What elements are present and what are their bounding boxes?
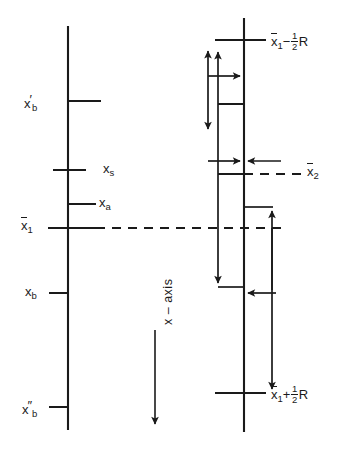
label-x1-bar-text: x1 [21,218,33,233]
label-xa-text: xa [99,195,111,210]
axis-title: x – axis [161,279,175,325]
label-x1-minus-half-r: x1−12R [271,31,308,51]
label-x2-bar-text: x2 [307,164,319,179]
label-x1-minus-half-r-text: x1−12R [271,34,308,49]
label-xb-double-prime-text: x″b [22,402,37,417]
label-xa: xa [99,196,111,212]
label-x2-bar: x2 [307,165,319,181]
figure-canvas: x′b xs xa x1 xb x″b x1−12R x2 x1+12R x –… [0,0,357,451]
label-xb-prime-text: x′b [24,96,37,111]
label-xb: xb [25,285,37,301]
label-xb-text: xb [25,284,37,299]
label-x1-plus-half-r-text: x1+12R [271,387,308,402]
label-xb-double-prime: x″b [22,399,37,418]
label-xs-text: xs [103,161,114,176]
label-xb-prime: x′b [24,93,37,112]
label-x1-plus-half-r: x1+12R [271,384,308,404]
label-x1-bar: x1 [21,219,33,235]
label-xs: xs [103,162,114,178]
